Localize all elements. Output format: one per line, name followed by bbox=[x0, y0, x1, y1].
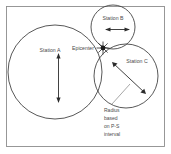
station-a-label: Station A bbox=[40, 47, 61, 53]
station-c-label: Station C bbox=[126, 58, 148, 64]
figure-container: Station A Station B Station C Epicenter … bbox=[0, 0, 171, 154]
radius-note-line-2: based bbox=[104, 115, 118, 121]
epicenter-triangulation-diagram: Station A Station B Station C Epicenter … bbox=[0, 0, 171, 154]
diagram-frame bbox=[7, 7, 165, 147]
epicenter-marker bbox=[97, 42, 110, 55]
radius-note-line-4: interval bbox=[104, 131, 120, 137]
radius-note-line-3: on P-S bbox=[104, 123, 120, 129]
epicenter-label: Epicenter bbox=[72, 45, 94, 51]
station-b-label: Station B bbox=[102, 15, 124, 21]
radius-note-line-1: Radius bbox=[104, 107, 120, 113]
